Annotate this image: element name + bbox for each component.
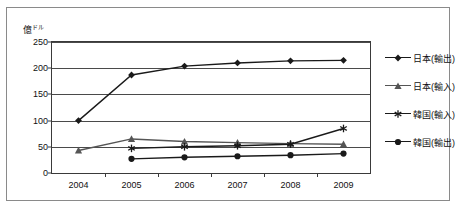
series-2 <box>128 125 347 153</box>
legend-key <box>385 51 411 65</box>
y-axis-unit-sub: ドル <box>32 24 44 30</box>
plot-area: 050100150200250 200420052006200720082009 <box>51 41 371 174</box>
x-axis-tick-label: 2008 <box>280 180 300 190</box>
legend-label: 韓国(輸入) <box>413 108 455 121</box>
x-axis-tick-mark <box>264 173 265 177</box>
series-layer <box>52 42 370 173</box>
circle-marker <box>181 154 187 160</box>
x-axis-tick-label: 2009 <box>333 180 353 190</box>
x-axis-tick-label: 2007 <box>227 180 247 190</box>
legend-item-1[interactable]: 日本(輸入) <box>385 72 458 100</box>
y-axis-tick-label: 250 <box>33 37 48 47</box>
x-axis-tick-mark <box>105 173 106 177</box>
asterisk-marker <box>395 110 402 118</box>
series-line <box>79 60 344 120</box>
circle-marker <box>395 139 401 145</box>
legend-label: 日本(輸入) <box>413 80 455 93</box>
x-axis-tick-mark <box>158 173 159 177</box>
legend-item-0[interactable]: 日本(輸出) <box>385 44 458 72</box>
diamond-marker <box>395 55 402 62</box>
y-axis-tick-label: 200 <box>33 63 48 73</box>
circle-marker <box>128 156 134 162</box>
legend-item-3[interactable]: 韓国(輸出) <box>385 128 458 156</box>
circle-marker <box>340 151 346 157</box>
series-0 <box>75 57 347 124</box>
circle-marker <box>287 152 293 158</box>
y-axis-unit-main: 億 <box>23 25 32 35</box>
legend-key <box>385 107 411 121</box>
chart-figure: 億ドル 050100150200250 20042005200620072008… <box>6 7 450 201</box>
y-axis-tick-label: 50 <box>38 142 48 152</box>
x-axis-tick-mark <box>211 173 212 177</box>
legend-key <box>385 135 411 149</box>
chart-legend: 日本(輸出)日本(輸入)韓国(輸入)韓国(輸出) <box>385 44 458 156</box>
x-axis-tick-label: 2005 <box>121 180 141 190</box>
series-1 <box>75 135 347 153</box>
legend-label: 韓国(輸出) <box>413 136 455 149</box>
diamond-marker <box>287 57 294 64</box>
x-axis-tick-label: 2006 <box>174 180 194 190</box>
y-axis-unit-label: 億ドル <box>23 22 44 36</box>
circle-marker <box>234 153 240 159</box>
diamond-marker <box>340 57 347 64</box>
legend-key <box>385 79 411 93</box>
x-axis-tick-label: 2004 <box>68 180 88 190</box>
legend-item-2[interactable]: 韓国(輸入) <box>385 100 458 128</box>
y-axis-tick-label: 150 <box>33 89 48 99</box>
diamond-marker <box>181 63 188 70</box>
triangle-marker <box>394 82 401 89</box>
x-axis-tick-mark <box>317 173 318 177</box>
y-axis-tick-label: 100 <box>33 116 48 126</box>
diamond-marker <box>234 60 241 67</box>
legend-label: 日本(輸出) <box>413 52 455 65</box>
series-3 <box>128 151 346 162</box>
